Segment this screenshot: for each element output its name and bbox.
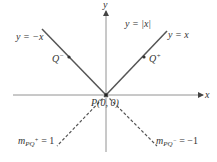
point-q-plus	[142, 55, 145, 58]
line-neg-label: y = −x	[15, 31, 44, 42]
point-q-minus	[67, 55, 70, 58]
slope-neg-label: mPQ− = −1	[156, 135, 198, 148]
origin-label: P(0, 0)	[90, 97, 119, 109]
q-plus-label: Q+	[149, 52, 161, 64]
y-axis-label: y	[102, 0, 108, 10]
q-minus-label: Q−	[52, 52, 64, 64]
absolute-value-diagram: x y y = |x| y = x y = −x Q− Q+ P(0, 0) m…	[0, 0, 217, 162]
curve-label: y = |x|	[124, 18, 151, 29]
slope-pos-label: mPQ+ = 1	[18, 135, 54, 148]
line-y-equals-x	[106, 31, 167, 95]
line-pos-label: y = x	[167, 29, 189, 40]
x-axis-label: x	[204, 89, 210, 100]
